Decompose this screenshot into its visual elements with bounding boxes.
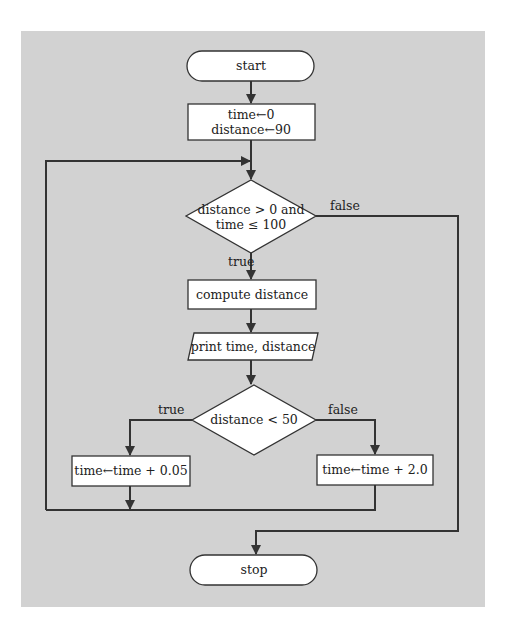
node-inc-small: time←time + 0.05 — [72, 456, 190, 486]
edge-label-branch-false: false — [328, 402, 358, 417]
edge-label-loop-true: true — [228, 254, 254, 269]
edge-label-branch-true: true — [158, 402, 184, 417]
edge-label-loop-false: false — [330, 198, 360, 213]
node-compute: compute distance — [188, 280, 316, 309]
node-init-line-1: time←0 — [228, 107, 275, 122]
node-inc-large-label: time←time + 2.0 — [322, 462, 427, 477]
node-loop-condition-line-2: time ≤ 100 — [216, 217, 287, 232]
node-branch-condition: distance < 50 — [192, 385, 316, 455]
edge-branch-true-to-inc-small — [130, 420, 192, 455]
node-branch-condition-label: distance < 50 — [210, 412, 298, 427]
node-compute-label: compute distance — [196, 287, 308, 302]
flowchart-svg: start time←0 distance←90 distance > 0 an… — [0, 0, 508, 634]
edge-loop-false-to-stop — [256, 216, 458, 554]
node-start: start — [187, 51, 314, 81]
node-print-label: print time, distance — [191, 339, 316, 354]
node-stop-label: stop — [241, 562, 268, 577]
edge-inc-large-to-loop-bottom — [46, 485, 375, 510]
edge-branch-false-to-inc-large — [316, 420, 375, 454]
node-loop-condition: distance > 0 and time ≤ 100 — [186, 180, 316, 253]
node-inc-small-label: time←time + 0.05 — [74, 463, 187, 478]
node-loop-condition-line-1: distance > 0 and — [197, 202, 304, 217]
node-init: time←0 distance←90 — [188, 104, 315, 140]
node-print: print time, distance — [188, 333, 318, 360]
node-stop: stop — [190, 555, 317, 585]
node-start-label: start — [236, 58, 266, 73]
node-inc-large: time←time + 2.0 — [317, 455, 433, 485]
flowchart-figure: start time←0 distance←90 distance > 0 an… — [0, 0, 508, 634]
node-init-line-2: distance←90 — [211, 122, 291, 137]
